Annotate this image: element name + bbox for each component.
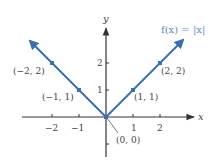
point-label: (−1, 1) (42, 92, 74, 102)
absolute-value-graph: x y −2 −1 1 2 1 2 (−2, 2) (−1, 1) (0, 0)… (0, 0, 222, 163)
point-label: (1, 1) (134, 92, 158, 102)
y-axis-label: y (102, 13, 109, 24)
y-tick-label: 1 (97, 85, 103, 95)
x-tick-label: −2 (45, 123, 58, 133)
x-tick-label: −1 (71, 123, 84, 133)
x-axis-label: x (198, 111, 204, 122)
x-tick-label: 2 (157, 123, 163, 133)
x-tick-label: 1 (131, 123, 137, 133)
point-label: (−2, 2) (13, 66, 45, 76)
left-branch-line (30, 41, 106, 117)
point-label: (0, 0) (116, 135, 140, 145)
point-marker (77, 88, 81, 92)
y-tick-label: 2 (97, 58, 103, 68)
point-marker (50, 61, 54, 65)
point-marker (158, 61, 162, 65)
function-label: f(x) = |x| (161, 24, 205, 36)
point-label: (2, 2) (161, 66, 185, 76)
right-branch-line (106, 40, 183, 117)
origin-leader-line (107, 118, 118, 133)
y-ticks: 1 2 (97, 58, 109, 144)
